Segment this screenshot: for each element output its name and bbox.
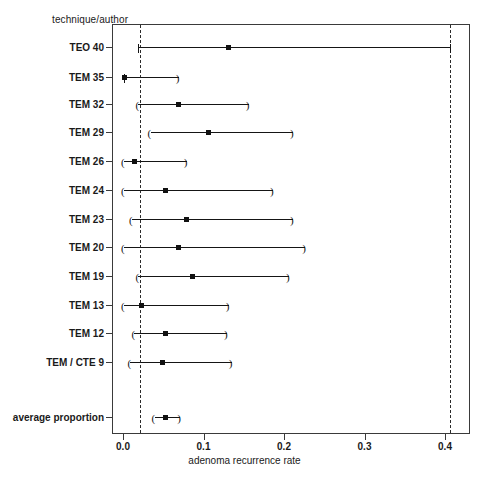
confidence-interval-line: [134, 333, 227, 334]
forest-plot-figure: technique/author )()()()()()()()()()()()…: [0, 0, 489, 486]
x-axis-ticklabel: 0.4: [438, 441, 452, 452]
y-axis-tick: [106, 77, 112, 78]
y-axis-label-tem-32: TEM 32: [69, 99, 104, 110]
y-axis-tick: [106, 132, 112, 133]
x-axis-tick: [123, 434, 124, 440]
plot-frame: )()()()()()()()()()()(): [112, 24, 470, 434]
reference-line-upper-reference: [450, 25, 451, 433]
x-axis-ticklabel: 0.2: [277, 441, 291, 452]
y-axis-label-tem-29: TEM 29: [69, 127, 104, 138]
estimate-marker: [190, 274, 195, 279]
estimate-marker: [122, 75, 127, 80]
confidence-interval-line: [151, 132, 293, 133]
y-axis-tick: [106, 276, 112, 277]
x-axis-tick: [204, 434, 205, 440]
y-axis-label-tem-26: TEM 26: [69, 156, 104, 167]
estimate-marker: [226, 45, 231, 50]
estimate-marker: [206, 130, 211, 135]
confidence-interval-line: [124, 190, 273, 191]
reference-line-lower-reference: [140, 25, 141, 433]
y-axis-label-tem-13: TEM 13: [69, 300, 104, 311]
y-axis-tick: [106, 104, 112, 105]
confidence-interval-line: [138, 47, 450, 48]
estimate-marker: [176, 102, 181, 107]
y-axis-label-tem-20: TEM 20: [69, 242, 104, 253]
y-axis-label-tem-24: TEM 24: [69, 185, 104, 196]
x-axis-ticklabel: 0.1: [197, 441, 211, 452]
y-axis-tick: [106, 219, 112, 220]
confidence-interval-line: [124, 247, 305, 248]
y-axis-tick: [106, 247, 112, 248]
y-axis-tick: [106, 161, 112, 162]
x-axis-tick: [284, 434, 285, 440]
estimate-marker: [132, 159, 137, 164]
estimate-marker: [139, 303, 144, 308]
y-axis-label-teo-40: TEO 40: [70, 42, 104, 53]
y-axis-tick: [106, 417, 112, 418]
y-axis-label-tem-19: TEM 19: [69, 271, 104, 282]
y-axis-tick: [106, 305, 112, 306]
x-axis-ticklabel: 0.3: [358, 441, 372, 452]
y-axis-label-tem-12: TEM 12: [69, 328, 104, 339]
estimate-marker: [160, 360, 165, 365]
x-axis-ticklabel: 0.0: [116, 441, 130, 452]
confidence-interval-line: [130, 362, 231, 363]
plot-area: )()()()()()()()()()()(): [113, 25, 469, 433]
estimate-marker: [163, 188, 168, 193]
y-axis-label-tem-23: TEM 23: [69, 214, 104, 225]
y-axis-label-tem-35: TEM 35: [69, 72, 104, 83]
confidence-interval-line: [132, 219, 293, 220]
confidence-interval-line: [138, 104, 248, 105]
y-axis-tick: [106, 333, 112, 334]
y-axis-tick: [106, 190, 112, 191]
x-axis-title: adenoma recurrence rate: [0, 455, 489, 466]
y-axis-tick: [106, 362, 112, 363]
y-axis-label-tem-cte-9: TEM / CTE 9: [46, 357, 104, 368]
ci-cap-right: [450, 44, 451, 53]
confidence-interval-line: [138, 276, 289, 277]
estimate-marker: [163, 415, 168, 420]
y-axis-label-average-proportion: average proportion: [13, 412, 104, 423]
x-axis-tick: [445, 434, 446, 440]
estimate-marker: [176, 245, 181, 250]
confidence-interval-line: [124, 77, 179, 78]
ci-cap-left: [138, 44, 139, 53]
y-axis-tick: [106, 47, 112, 48]
x-axis-tick: [365, 434, 366, 440]
estimate-marker: [184, 217, 189, 222]
estimate-marker: [163, 331, 168, 336]
